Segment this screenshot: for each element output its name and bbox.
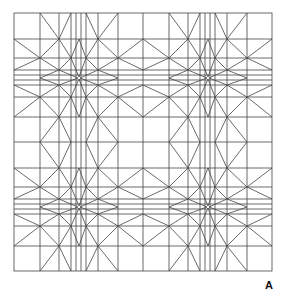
tile-bottom-right xyxy=(143,142,272,271)
tile-top-left xyxy=(14,13,143,142)
pattern-frame xyxy=(14,13,272,271)
geometric-pattern-diagram xyxy=(0,0,282,292)
tile-top-right xyxy=(143,13,272,142)
panel-label: A xyxy=(265,279,273,291)
tile-bottom-left xyxy=(14,142,143,271)
